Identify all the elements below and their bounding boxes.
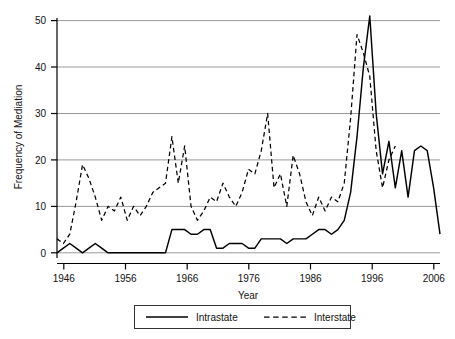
y-tick-label-10: 10 [35, 201, 47, 212]
y-axis-title: Frequency of Mediation [13, 85, 24, 190]
x-tick-label-1966: 1966 [176, 273, 199, 284]
x-tick-label-1986: 1986 [299, 273, 322, 284]
x-tick-label-1956: 1956 [114, 273, 137, 284]
x-tick-label-2006: 2006 [423, 273, 446, 284]
y-tick-label-50: 50 [35, 15, 47, 26]
legend-label-interstate: Interstate [314, 312, 356, 323]
x-tick-label-1976: 1976 [238, 273, 261, 284]
x-axis-title: Year [238, 290, 259, 301]
legend-label-intrastate: Intrastate [196, 312, 238, 323]
x-tick-label-1946: 1946 [53, 273, 76, 284]
y-tick-label-20: 20 [35, 155, 47, 166]
legend: Intrastate Interstate [135, 306, 357, 329]
frequency-of-mediation-line-chart: 50 40 30 20 10 0 Frequency of Mediation … [0, 0, 455, 339]
y-tick-label-40: 40 [35, 62, 47, 73]
y-tick-label-0: 0 [40, 248, 46, 259]
x-tick-label-1996: 1996 [361, 273, 384, 284]
y-tick-label-30: 30 [35, 108, 47, 119]
